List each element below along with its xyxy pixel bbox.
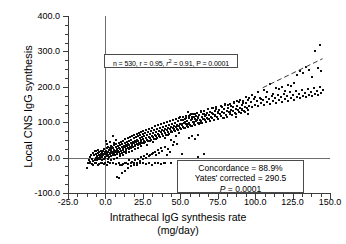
x-axis-title-units: (mg/day) — [48, 224, 308, 237]
x-axis-title-main: Intrathecal IgG synthesis rate — [48, 211, 308, 224]
x-tick-minor — [321, 193, 322, 197]
p-value: = 0.0001 — [225, 184, 261, 194]
concordance-line: Concordance = 88.9% — [178, 163, 303, 173]
yates-corrected-line: Yates' corrected = 290.5 — [178, 173, 303, 183]
x-tick-minor — [87, 193, 88, 197]
x-tick-minor — [171, 193, 172, 197]
y-tick-label: 200.0 — [14, 83, 60, 92]
y-axis-title: Local CNS IgG synthesis — [23, 17, 34, 197]
concordance-annotation-box: Concordance = 88.9% Yates' corrected = 2… — [177, 160, 304, 193]
y-tick-label: 100.0 — [14, 118, 60, 127]
x-tick-minor — [134, 193, 135, 197]
stats-annotation-box: n = 530, r = 0.95, r2 = 0.91, P = 0.0001 — [104, 54, 238, 68]
stats-n: n = 530, — [113, 60, 138, 67]
x-tick-minor — [124, 193, 125, 197]
p-value-line: P = 0.0001 — [178, 184, 303, 194]
x-tick-minor — [115, 193, 116, 197]
y-tick-label: 300.0 — [14, 47, 60, 56]
x-tick-minor — [77, 193, 78, 197]
x-tick-minor — [96, 193, 97, 197]
x-axis-title: Intrathecal IgG synthesis rate (mg/day) — [48, 211, 308, 236]
stats-r: r = 0.95, — [139, 60, 164, 67]
stats-p: P = 0.0001 — [196, 60, 229, 67]
x-tick-label: 150.0 — [306, 198, 346, 207]
y-tick-label: 0.0 — [14, 154, 60, 163]
y-tick-label: 400.0 — [14, 12, 60, 21]
stats-r2-value: = 0.91, — [172, 60, 195, 67]
x-tick-minor — [152, 193, 153, 197]
x-tick-minor — [311, 193, 312, 197]
y-tick-label: -100.0 — [14, 189, 60, 198]
x-tick-minor — [162, 193, 163, 197]
